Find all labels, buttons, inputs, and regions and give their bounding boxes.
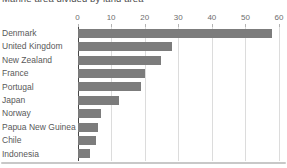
bar-france xyxy=(78,69,145,78)
category-label: Indonesia xyxy=(2,148,76,161)
gridline xyxy=(279,27,280,161)
category-label: New Zealand xyxy=(2,54,76,67)
bottom-divider xyxy=(1,162,286,164)
bar-chile xyxy=(78,136,96,145)
gridline xyxy=(212,27,213,161)
chart: Marine area divided by land area 0102030… xyxy=(0,0,287,168)
x-tick-label: 50 xyxy=(241,13,250,22)
bar-indonesia xyxy=(78,149,90,158)
category-label: Chile xyxy=(2,134,76,147)
category-label: Papua New Guinea xyxy=(2,121,76,134)
bar-norway xyxy=(78,109,102,118)
category-label: Norway xyxy=(2,107,76,120)
category-label: Denmark xyxy=(2,27,76,40)
bar-united-kingdom xyxy=(78,42,172,51)
bar-new-zealand xyxy=(78,56,162,65)
x-tick-label: 20 xyxy=(140,13,149,22)
chart-title: Marine area divided by land area xyxy=(2,0,242,4)
chart-title-clipped: Marine area divided by land area xyxy=(2,0,242,6)
category-label: United Kingdom xyxy=(2,40,76,53)
x-tick-label: 40 xyxy=(207,13,216,22)
gridline xyxy=(245,27,246,161)
category-label: Portugal xyxy=(2,81,76,94)
x-tick-label: 30 xyxy=(174,13,183,22)
x-tick-label: 60 xyxy=(275,13,284,22)
x-tick-label: 10 xyxy=(107,13,116,22)
bar-denmark xyxy=(78,29,273,38)
bar-papua-new-guinea xyxy=(78,123,98,132)
gridline xyxy=(178,27,179,161)
category-label: France xyxy=(2,67,76,80)
bar-japan xyxy=(78,96,120,105)
x-tick-label: 0 xyxy=(75,13,79,22)
bar-portugal xyxy=(78,82,142,91)
category-label: Japan xyxy=(2,94,76,107)
